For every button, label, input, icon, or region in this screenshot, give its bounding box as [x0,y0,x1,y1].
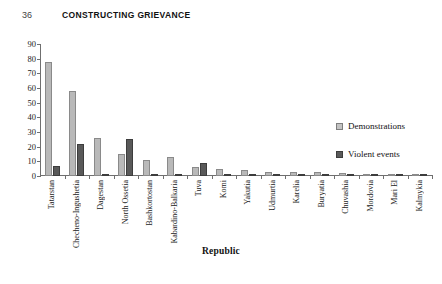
figure-bar-chart: 0102030405060708090 TatarstanChecheno-In… [0,38,442,284]
running-title: CONSTRUCTING GRIEVANCE [62,10,190,20]
bar-group [40,44,65,176]
bar-violent-events [53,166,60,176]
running-head: 36 CONSTRUCTING GRIEVANCE [0,10,442,24]
y-tick [37,176,41,177]
y-tick-label: 0 [15,172,36,180]
bar-demonstrations [265,172,272,176]
x-category-label: Mordovia [367,180,375,212]
legend-item-demonstrations: Demonstrations [336,120,440,138]
bar-demonstrations [192,167,199,176]
bar-violent-events [175,174,182,176]
bar-demonstrations [241,170,248,176]
x-category-label: Tatarstan [48,180,56,209]
bar-group [114,44,139,176]
legend-swatch-demonstrations [336,123,343,130]
bar-group [138,44,163,176]
bar-group [65,44,90,176]
legend-item-violent-events: Violent events [336,148,440,166]
y-tick-label: 90 [15,40,36,48]
bar-demonstrations [45,62,52,176]
bar-violent-events [126,139,133,176]
bar-group [187,44,212,176]
bar-demonstrations [290,172,297,176]
x-category-label: Kalmykia [416,180,424,212]
bar-group [236,44,261,176]
legend-label-demonstrations: Demonstrations [348,120,405,132]
y-tick-label: 40 [15,113,36,121]
x-category-label: Dagestan [97,180,105,210]
bar-violent-events [322,174,329,176]
y-tick-label: 20 [15,143,36,151]
bar-group [212,44,237,176]
bar-violent-events [151,174,158,176]
book-page: 36 CONSTRUCTING GRIEVANCE 01020304050607… [0,0,442,284]
x-category-label: Mari El [391,180,399,205]
y-tick-label: 50 [15,99,36,107]
bar-violent-events [273,174,280,176]
bar-violent-events [77,144,84,176]
x-category-label: Buryatia [318,180,326,208]
y-tick-label: 10 [15,157,36,165]
bar-demonstrations [118,154,125,176]
bar-violent-events [298,174,305,176]
x-category-label: Bashkortostan [146,180,154,226]
page-number: 36 [22,10,32,20]
bar-demonstrations [69,91,76,176]
x-category-label: Yakutia [244,180,252,205]
legend-label-violent-events: Violent events [348,148,400,160]
bar-group [89,44,114,176]
bar-violent-events [200,163,207,176]
y-tick-label: 70 [15,69,36,77]
x-category-label: Checheno-Ingushetia [73,180,81,248]
x-category-label: Chuvashia [342,180,350,214]
x-category-label: Tuva [195,180,203,196]
bar-violent-events [224,174,231,176]
bar-demonstrations [94,138,101,176]
bar-violent-events [249,174,256,176]
bar-demonstrations [216,169,223,176]
bar-demonstrations [143,160,150,176]
x-category-label: Udmurtia [269,180,277,211]
y-tick-label: 30 [15,128,36,136]
bar-group [261,44,286,176]
chart-legend: Demonstrations Violent events [336,120,440,176]
bar-violent-events [102,174,109,176]
x-category-label: Komi [220,180,228,198]
bar-group [163,44,188,176]
y-tick-label: 60 [15,84,36,92]
x-axis-title: Republic [0,246,442,256]
bar-demonstrations [167,157,174,176]
legend-swatch-violent-events [336,151,343,158]
x-category-label: Karelia [293,180,301,204]
y-tick-label: 80 [15,55,36,63]
x-category-label: North Ossetia [122,180,130,224]
bar-group [310,44,335,176]
x-category-label: Kabardino-Balkaria [171,180,179,244]
bar-group [285,44,310,176]
bar-demonstrations [314,172,321,176]
